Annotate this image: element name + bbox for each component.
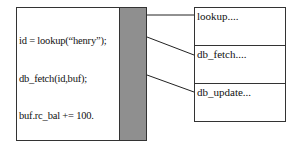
function-label: db_update...	[197, 86, 251, 98]
code-line: db_fetch(id,buf);	[19, 73, 106, 86]
connector-db-fetch	[147, 37, 194, 55]
function-label: db_fetch....	[197, 48, 246, 60]
connector-db-update	[147, 75, 194, 92]
code-lines: id = lookup(“henry”); db_fetch(id,buf); …	[19, 10, 106, 147]
function-label: lookup....	[197, 10, 239, 22]
code-block: id = lookup(“henry”); db_fetch(id,buf); …	[16, 7, 119, 141]
code-line: buf.rc_bal += 100.	[19, 110, 106, 123]
function-cell-lookup: lookup....	[195, 8, 285, 46]
gray-panel	[119, 7, 147, 141]
function-cell-db-fetch: db_fetch....	[195, 46, 285, 84]
code-line: id = lookup(“henry”);	[19, 35, 106, 48]
function-table: lookup.... db_fetch.... db_update...	[194, 7, 286, 122]
function-cell-db-update: db_update...	[195, 84, 285, 122]
